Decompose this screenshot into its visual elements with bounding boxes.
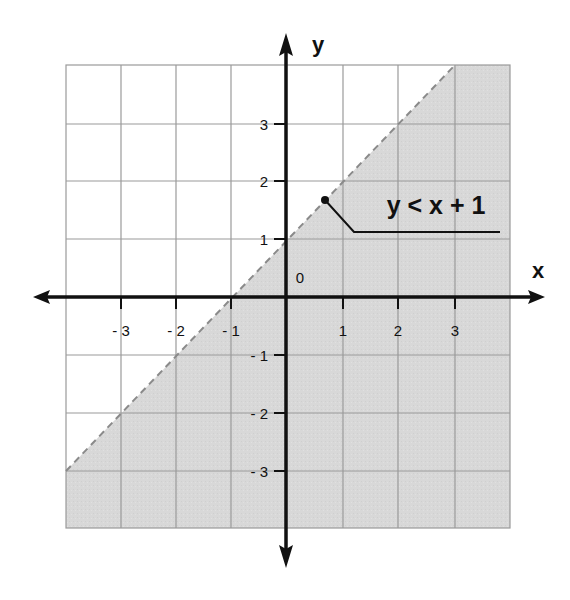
y-tick-label: 1	[260, 231, 268, 248]
x-tick-label: - 2	[167, 322, 185, 339]
x-tick-label: 3	[451, 322, 459, 339]
x-tick-label: 1	[339, 322, 347, 339]
y-tick-label: - 2	[250, 405, 268, 422]
x-tick-label: - 1	[222, 322, 240, 339]
inequality-label: y < x + 1	[387, 191, 486, 219]
y-tick-label: 2	[260, 173, 268, 190]
y-tick-label: - 3	[250, 463, 268, 480]
origin-label: 0	[296, 269, 304, 286]
inequality-graph: - 3 - 2 - 1 1 2 3 3 2 1 - 1 - 2 - 3 0 x …	[0, 0, 570, 600]
x-axis-label: x	[532, 258, 545, 283]
y-tick-label: - 1	[250, 347, 268, 364]
x-tick-label: - 3	[112, 322, 130, 339]
y-tick-label: 3	[260, 116, 268, 133]
y-axis-label: y	[312, 32, 325, 57]
x-tick-label: 2	[394, 322, 402, 339]
